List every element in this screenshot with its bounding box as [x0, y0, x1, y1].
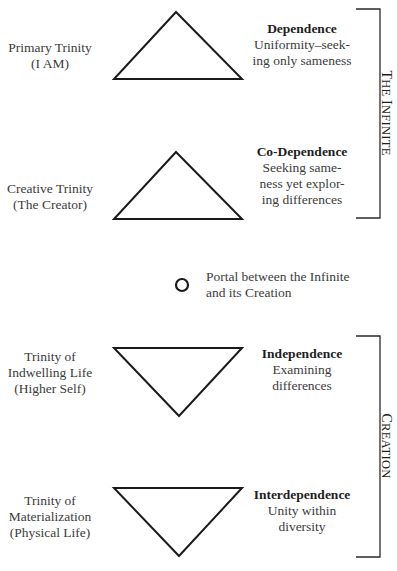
desc-line: Examining: [248, 362, 356, 378]
group-label-creation: CREATION: [378, 406, 394, 486]
portal-line: Portal between the Infinite: [206, 269, 350, 285]
desc-co-dependence: Co-Dependence Seeking same- ness yet exp…: [248, 144, 356, 208]
group-label-infinite: THE INFINITE: [378, 58, 394, 168]
portal-line: and its Creation: [206, 285, 350, 301]
label-name: Creative Trinity: [0, 181, 100, 197]
desc-line: Uniformity–seek-: [248, 37, 356, 53]
portal-circle-icon: [176, 279, 188, 291]
label-sub: (I AM): [0, 56, 100, 72]
desc-title: Interdependence: [248, 487, 356, 503]
desc-line: ing differences: [248, 192, 356, 208]
desc-line: ness yet explor-: [248, 176, 356, 192]
label-name2: Indwelling Life: [0, 365, 100, 381]
label-creative-trinity: Creative Trinity (The Creator): [0, 181, 100, 213]
label-name: Trinity of: [0, 349, 100, 365]
desc-interdependence: Interdependence Unity within diversity: [248, 487, 356, 535]
label-name: Primary Trinity: [0, 40, 100, 56]
label-sub: (Physical Life): [0, 525, 100, 541]
label-sub: (Higher Self): [0, 381, 100, 397]
desc-dependence: Dependence Uniformity–seek- ing only sam…: [248, 21, 356, 69]
label-name: Trinity of: [0, 493, 100, 509]
label-sub: (The Creator): [0, 197, 100, 213]
label-name2: Materialization: [0, 509, 100, 525]
triangle-down-indwelling: [114, 348, 242, 416]
portal-description: Portal between the Infinite and its Crea…: [206, 269, 350, 301]
triangle-up-creative: [114, 152, 242, 219]
label-indwelling-life: Trinity of Indwelling Life (Higher Self): [0, 349, 100, 397]
desc-line: Seeking same-: [248, 160, 356, 176]
desc-line: Unity within: [248, 503, 356, 519]
desc-title: Independence: [248, 346, 356, 362]
bracket-creation: [356, 336, 380, 557]
desc-line: ing only sameness: [248, 53, 356, 69]
desc-independence: Independence Examining differences: [248, 346, 356, 394]
desc-line: differences: [248, 378, 356, 394]
desc-title: Dependence: [248, 21, 356, 37]
bracket-infinite: [356, 9, 380, 218]
desc-line: diversity: [248, 519, 356, 535]
triangle-down-materialization: [114, 488, 242, 556]
desc-title: Co-Dependence: [248, 144, 356, 160]
label-primary-trinity: Primary Trinity (I AM): [0, 40, 100, 72]
label-materialization: Trinity of Materialization (Physical Lif…: [0, 493, 100, 541]
triangle-up-primary: [114, 12, 242, 79]
